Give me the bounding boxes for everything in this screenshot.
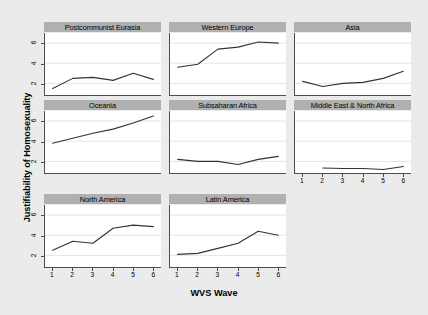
y-tick-label: 2 xyxy=(31,79,38,88)
y-tick-label: 6 xyxy=(31,210,38,219)
y-tick-mark xyxy=(41,215,44,216)
y-tick-label: 2 xyxy=(31,251,38,260)
plot-canvas xyxy=(170,111,286,173)
panel-title: Western Europe xyxy=(169,22,286,32)
y-tick-mark xyxy=(41,43,44,44)
plot-area xyxy=(44,205,161,268)
plot-area xyxy=(294,33,411,96)
panel-title: Oceania xyxy=(44,100,161,110)
panel-title: Postcommunist Eurasia xyxy=(44,22,161,32)
plot-canvas xyxy=(170,205,286,267)
y-tick-mark xyxy=(41,162,44,163)
panel-title: Middle East & North Africa xyxy=(294,100,411,110)
x-tick-label: 5 xyxy=(253,272,263,279)
plot-canvas xyxy=(295,111,411,173)
panel-middle-east-north-africa: Middle East & North Africa123456 xyxy=(294,100,411,174)
x-tick-label: 3 xyxy=(337,178,347,185)
panel-north-america: North America246123456 xyxy=(44,194,161,268)
x-tick-label: 1 xyxy=(172,272,182,279)
x-tick-label: 1 xyxy=(47,272,57,279)
panel-western-europe: Western Europe xyxy=(169,22,286,96)
data-line xyxy=(53,73,154,88)
panel-subsaharan-africa: Subsaharan Africa xyxy=(169,100,286,174)
plot-canvas xyxy=(45,205,161,267)
panel-title: Subsaharan Africa xyxy=(169,100,286,110)
x-tick-label: 3 xyxy=(212,272,222,279)
panel-latin-america: Latin America123456 xyxy=(169,194,286,268)
plot-area xyxy=(169,33,286,96)
x-tick-label: 3 xyxy=(87,272,97,279)
data-line xyxy=(303,71,404,86)
x-axis-title: WVS Wave xyxy=(0,288,428,298)
x-tick-label: 2 xyxy=(317,178,327,185)
plot-area xyxy=(294,111,411,174)
data-line xyxy=(53,116,154,143)
y-tick-mark xyxy=(41,142,44,143)
panel-title: North America xyxy=(44,194,161,204)
panel-title: Latin America xyxy=(169,194,286,204)
y-tick-label: 2 xyxy=(31,157,38,166)
data-line xyxy=(323,166,404,169)
plot-area xyxy=(44,111,161,174)
y-tick-mark xyxy=(41,256,44,257)
y-tick-label: 4 xyxy=(31,137,38,146)
plot-canvas xyxy=(45,111,161,173)
data-line xyxy=(53,225,154,250)
y-tick-mark xyxy=(41,121,44,122)
x-tick-label: 4 xyxy=(358,178,368,185)
x-tick-label: 5 xyxy=(128,272,138,279)
plot-canvas xyxy=(45,33,161,95)
data-line xyxy=(178,231,279,254)
data-line xyxy=(178,156,279,164)
y-tick-label: 4 xyxy=(31,231,38,240)
x-tick-label: 4 xyxy=(233,272,243,279)
y-tick-label: 6 xyxy=(31,116,38,125)
x-tick-label: 6 xyxy=(273,272,283,279)
x-tick-label: 2 xyxy=(192,272,202,279)
plot-area xyxy=(169,111,286,174)
panel-title: Asia xyxy=(294,22,411,32)
panel-oceania: Oceania246 xyxy=(44,100,161,174)
y-tick-mark xyxy=(41,236,44,237)
x-tick-label: 6 xyxy=(148,272,158,279)
x-tick-label: 2 xyxy=(67,272,77,279)
y-tick-label: 6 xyxy=(31,38,38,47)
plot-canvas xyxy=(295,33,411,95)
x-tick-label: 1 xyxy=(297,178,307,185)
y-tick-label: 4 xyxy=(31,59,38,68)
plot-area xyxy=(44,33,161,96)
y-tick-mark xyxy=(41,84,44,85)
chart-figure: Justifiability of Homosexuality WVS Wave… xyxy=(0,0,428,315)
y-tick-mark xyxy=(41,64,44,65)
x-tick-label: 6 xyxy=(398,178,408,185)
x-tick-label: 4 xyxy=(108,272,118,279)
panel-asia: Asia xyxy=(294,22,411,96)
plot-canvas xyxy=(170,33,286,95)
x-tick-label: 5 xyxy=(378,178,388,185)
plot-area xyxy=(169,205,286,268)
panel-postcommunist-eurasia: Postcommunist Eurasia246 xyxy=(44,22,161,96)
